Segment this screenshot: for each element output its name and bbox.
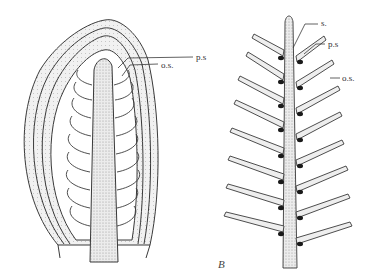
label-a-ps: p.s <box>196 53 206 62</box>
panel-b-branched-axis <box>224 16 352 268</box>
label-b-s: s. <box>321 19 327 28</box>
label-b-ps: p.s <box>328 40 338 49</box>
label-b-os: o.s. <box>342 74 355 83</box>
label-a-os: o.s. <box>161 61 174 70</box>
panel-a-cone-section <box>24 20 193 262</box>
figure-canvas: p.s o.s. s. p.s o.s. B <box>0 0 365 276</box>
panel-b-label: B <box>218 258 225 270</box>
diagram-drawing <box>0 0 365 276</box>
